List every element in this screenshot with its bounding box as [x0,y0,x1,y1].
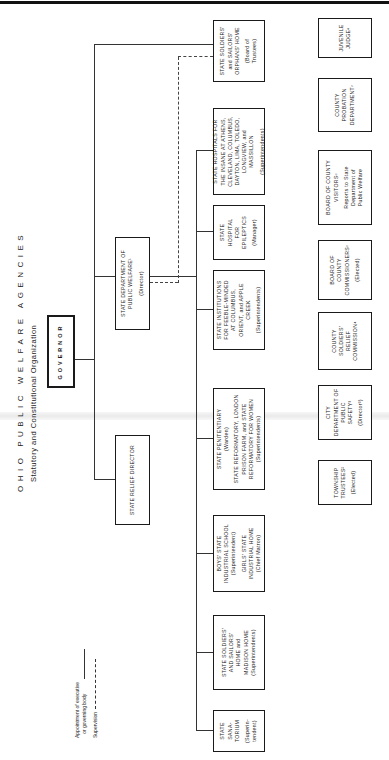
institution-industrial-schools: BOYS' STATE INDUSTRIAL SCHOOL (Superinte… [213,515,265,592]
institution-feeble-minded: STATE INSTITUTIONS FOR FEEBLE-MINDED AT … [213,270,265,350]
legend-appointment-label: Appointment of executive or governing bo… [74,682,88,738]
state-dept-welfare-box: STATE DEPARTMENT OF PUBLIC WELFARE¹ (Dir… [115,237,150,330]
org-chart: OHIO PUBLIC WELFARE AGENCIES Statutory a… [0,0,389,760]
governor-label: GOVERNOR [57,323,64,379]
institution-head-2: (Superintendents) [255,416,262,462]
agency-note: Reports to State Department of Public We… [343,166,365,208]
legend-solid-line [84,649,85,679]
local-juvenile-judge: JUVENILE JUDGE⁸ [318,18,372,58]
institution-name: STATE PENITENTIARY [216,409,223,469]
agency-note: (Elected) [354,258,361,281]
supervision-line-1 [150,282,178,283]
drop-soldiers-home [196,652,213,653]
institution-penitentiary: STATE PENITENTIARY (Warden) STATE REFORM… [213,388,265,490]
agency-note: (Elected) [350,471,357,494]
institution-head: (Superintendents) [255,287,262,333]
institution-name: STATE SOLDIERS' and SAILORS' ORPHANS' HO… [219,26,241,75]
institution-insane-hospitals: STATE HOSPITALS FOR THE INSANE AT ATHENS… [213,108,265,195]
institution-epileptics: STATE HOSPITAL FOR EPILEPTICS (Manager) [213,205,265,260]
agency-name: BOARD OF COUNTY VISITORS⁶ [325,160,339,215]
institution-sanatorium: STATE SANA- TORIUM (Superin- tendent) [213,710,265,752]
institution-name: STATE HOSPITAL FOR EPILEPTICS [219,216,248,249]
agency-name: COUNTY PROBATION DEPARTMENT⁷ [334,85,356,125]
local-soldiers-relief: COUNTY SOLDIERS' RELIEF COMMISSION⁴ [318,312,372,370]
institution-head: (Manager) [251,219,258,246]
drop-sanatorium [196,730,213,731]
institution-head: (Board of Trustees) [244,39,258,63]
drop-feeble [196,309,213,310]
institution-head: (Superintendents) [259,128,266,174]
state-relief-director-box: STATE RELIEF DIRECTOR [115,435,150,525]
state-dept-head: (Director) [138,271,145,296]
governor-trunk [94,45,95,480]
local-probation-dept: COUNTY PROBATION DEPARTMENT⁷ [318,78,372,132]
agency-name: COUNTY SOLDIERS' RELIEF COMMISSION⁴ [331,321,360,361]
drop-industrial [196,553,213,554]
institution-head: (Superintendent) [230,532,237,575]
trunk-to-relief [94,479,115,480]
legend-supervision-label: Supervision [92,712,99,738]
director-to-institutions [150,276,196,277]
drop-insane [196,150,213,151]
agency-name: JUVENILE JUDGE⁸ [338,24,352,51]
institution-orphans-home: STATE SOLDIERS' and SAILORS' ORPHANS' HO… [213,20,265,82]
institution-name: STATE HOSPITALS FOR THE INSANE AT ATHENS… [212,116,255,187]
institution-head: (Warden) [223,427,230,451]
local-township-trustees: TOWNSHIP TRUSTEES² (Elected) [318,460,372,505]
top-border-rule [0,1,389,4]
agency-note: (Director³) [357,399,364,426]
institution-name: STATE INSTITUTIONS FOR FEEBLE-MINDED AT … [216,280,252,340]
institution-name-2: GIRLS' STATE INDUSTRIAL HOME [241,527,255,579]
institution-head: (Superintendents) [250,629,257,675]
institutions-trunk [196,151,197,731]
relief-director-label: STATE RELIEF DIRECTOR [129,445,136,515]
drop-penitentiary [196,438,213,439]
institution-name: STATE SOLDIERS' AND SAILORS' HOME and MA… [221,628,250,677]
drop-epileptics [196,231,213,232]
chart-title: OHIO PUBLIC WELFARE AGENCIES [16,231,25,492]
trunk-to-orphans [94,44,213,45]
local-city-safety: CITY DEPARTMENT OF PUBLIC SAFETY³ (Direc… [318,385,372,440]
institution-head-2: (Chief Matron) [255,535,262,572]
institution-name: BOYS' STATE INDUSTRIAL SCHOOL [216,524,230,583]
legend: Appointment of executive or governing bo… [74,649,99,738]
agency-name: BOARD OF COUNTY COMMISSIONERS⁵ [329,244,351,295]
governor-connector [75,359,94,360]
institution-name-2: STATE REFORMATORY, LONDON PRISON FARM, a… [233,394,255,483]
agency-name: TOWNSHIP TRUSTEES² [333,466,347,498]
institution-name: STATE SANA- TORIUM [219,720,241,742]
legend-dashed-line [95,659,96,709]
local-county-commissioners: BOARD OF COUNTY COMMISSIONERS⁵ (Elected) [318,240,372,300]
trunk-to-director [94,276,115,277]
local-county-visitors: BOARD OF COUNTY VISITORS⁶ Reports to Sta… [318,150,372,225]
institution-soldiers-home: STATE SOLDIERS' AND SAILORS' HOME and MA… [213,615,265,690]
institution-head: (Superin- tendent) [244,719,258,743]
state-dept-name: STATE DEPARTMENT OF PUBLIC WELFARE¹ [120,250,134,317]
supervision-line-2 [178,57,179,283]
governor-box: GOVERNOR [47,315,75,388]
supervision-line-3 [178,56,213,57]
agency-name: CITY DEPARTMENT OF PUBLIC SAFETY³ [325,389,354,437]
chart-subtitle: Statutory and Constitutional Organizatio… [29,325,38,482]
